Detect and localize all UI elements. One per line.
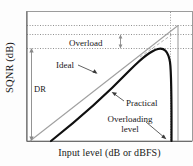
x-axis-label: Input level (dB or dBFS) bbox=[26, 148, 193, 159]
practical-annotation: Practical bbox=[126, 99, 157, 108]
overloading-level-line2: level bbox=[104, 124, 156, 134]
y-axis-label: SQNR (dB) bbox=[4, 36, 15, 100]
overload-annotation: Overload bbox=[69, 39, 103, 48]
overloading-level-annotation: Overloading level bbox=[104, 114, 156, 135]
sqnr-vs-input-level-figure: SQNR (dB) Input level (dB or dBFS) Overl… bbox=[0, 0, 193, 166]
chart-canvas bbox=[0, 0, 193, 166]
ideal-annotation: Ideal bbox=[56, 61, 74, 70]
overloading-level-line1: Overloading bbox=[108, 114, 153, 124]
dynamic-range-annotation: DR bbox=[34, 85, 46, 94]
